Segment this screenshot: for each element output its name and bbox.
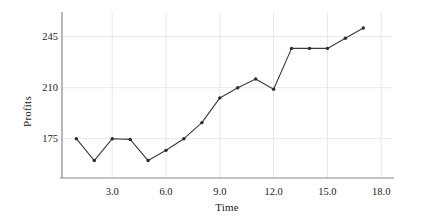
- data-point: [236, 86, 239, 89]
- data-point: [326, 47, 329, 50]
- data-point: [164, 149, 167, 152]
- data-point: [362, 26, 365, 29]
- data-point: [182, 137, 185, 140]
- plot-area: [0, 0, 422, 223]
- grid-lines: [62, 12, 392, 178]
- data-point: [146, 159, 149, 162]
- data-point: [75, 137, 78, 140]
- data-point: [290, 47, 293, 50]
- data-point: [254, 77, 257, 80]
- data-point: [200, 121, 203, 124]
- data-point: [344, 37, 347, 40]
- data-point: [218, 96, 221, 99]
- data-point: [308, 47, 311, 50]
- data-point: [93, 159, 96, 162]
- data-point: [128, 138, 131, 141]
- data-point: [111, 137, 114, 140]
- data-point: [272, 87, 275, 90]
- line-chart: Profits 175210245 3.06.09.012.015.018.0 …: [0, 0, 422, 223]
